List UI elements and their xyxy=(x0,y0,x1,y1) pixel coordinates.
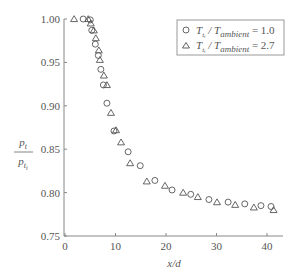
triangle-point xyxy=(127,160,134,166)
triangle-point xyxy=(214,199,221,205)
circle-point xyxy=(242,201,248,207)
scatter-chart: 0.750.800.850.900.951.00 010203040 pt pt… xyxy=(0,0,299,273)
triangle-point xyxy=(118,139,125,145)
y-axis: 0.750.800.850.900.951.00 xyxy=(41,13,67,242)
legend: Tti / Tambient = 1.0 Tti / Tambient = 2.… xyxy=(177,20,284,55)
circle-point xyxy=(225,199,231,205)
triangle-point xyxy=(95,47,102,53)
triangle-point xyxy=(92,35,99,41)
x-axis: 010203040 xyxy=(62,233,283,252)
triangle-point xyxy=(180,189,187,195)
triangle-point xyxy=(100,72,107,78)
y-axis-title: pt pti xyxy=(14,136,33,171)
triangle-point xyxy=(71,16,78,22)
y-tick-label: 0.85 xyxy=(41,143,61,155)
triangle-point xyxy=(143,178,150,184)
circle-point xyxy=(206,197,212,203)
circle-point xyxy=(152,177,158,183)
triangle-point xyxy=(250,204,257,210)
x-tick-label: 30 xyxy=(211,240,223,252)
svg-text:pt: pt xyxy=(18,136,28,151)
circle-point xyxy=(169,187,175,193)
svg-text:pti: pti xyxy=(17,155,28,171)
circle-point xyxy=(125,149,131,155)
triangle-point xyxy=(96,56,103,62)
circle-point xyxy=(92,41,98,47)
triangle-point xyxy=(161,182,168,188)
y-tick-label: 0.80 xyxy=(41,187,61,199)
x-axis-title: x/d xyxy=(166,257,181,269)
circle-point xyxy=(268,203,274,209)
circle-point xyxy=(137,163,143,169)
circle-point xyxy=(104,100,110,106)
x-tick-label: 10 xyxy=(110,240,122,252)
x-tick-label: 0 xyxy=(62,240,68,252)
x-tick-label: 40 xyxy=(262,240,274,252)
y-tick-label: 0.90 xyxy=(41,100,61,112)
circle-point xyxy=(188,191,194,197)
y-tick-label: 1.00 xyxy=(41,13,61,25)
y-tick-label: 0.95 xyxy=(41,56,61,68)
triangle-point xyxy=(194,194,201,200)
circle-point xyxy=(258,203,264,209)
circle-point xyxy=(98,66,104,72)
x-tick-label: 20 xyxy=(161,240,173,252)
triangle-point xyxy=(232,201,239,207)
y-tick-label: 0.75 xyxy=(41,230,61,242)
triangle-point xyxy=(107,109,114,115)
